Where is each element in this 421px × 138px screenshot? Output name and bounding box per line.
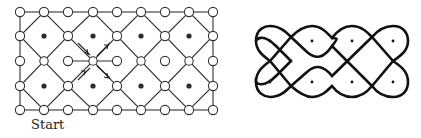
grid-node-circle	[112, 7, 121, 16]
filled-dot	[138, 83, 143, 88]
grid-node-circle	[185, 57, 193, 65]
grid-node-circle	[136, 105, 145, 114]
kolam-right-diagonals	[372, 37, 393, 86]
kolam-dot	[311, 40, 314, 43]
grid-node-circle	[160, 81, 169, 90]
grid-node-circle	[112, 105, 121, 114]
grid-node-circle	[39, 105, 48, 114]
grid-node-circle	[15, 31, 24, 40]
grid-node-circle	[63, 31, 72, 40]
grid-node-circle	[63, 56, 72, 65]
filled-dot	[41, 33, 46, 38]
kolam-dot	[311, 81, 314, 84]
grid-node-circle	[39, 7, 48, 16]
start-label: Start	[31, 117, 64, 132]
grid-nodes	[15, 7, 217, 114]
kolam-dot	[392, 40, 395, 43]
kolam-dot	[269, 40, 272, 43]
kolam-curve	[256, 26, 408, 97]
grid-node-circle	[208, 105, 217, 114]
grid-node-circle	[15, 7, 24, 16]
kolam-top-path	[256, 26, 408, 61]
filled-dot	[186, 83, 191, 88]
kolam-dot	[351, 40, 354, 43]
grid-node-circle	[15, 56, 24, 65]
kolam-inner-upper	[291, 37, 372, 86]
grid-node-circle	[112, 31, 121, 40]
grid-node-circle	[184, 105, 193, 114]
grid-node-circle	[208, 7, 217, 16]
grid-node-circle	[15, 81, 24, 90]
filled-dot	[186, 33, 191, 38]
filled-dot	[138, 33, 143, 38]
kolam-bottom-path	[256, 61, 408, 97]
kolam-dot	[351, 81, 354, 84]
grid-node-circle	[160, 56, 169, 65]
grid-node-circle	[63, 7, 72, 16]
kolam-dot	[269, 81, 272, 84]
grid-node-circle	[137, 57, 145, 65]
filled-dot	[90, 33, 95, 38]
grid-node-circle	[136, 7, 145, 16]
grid-node-circle	[15, 105, 24, 114]
grid-node-circle	[184, 7, 193, 16]
kolam-inner-lower	[291, 37, 372, 86]
grid-node-circle	[63, 105, 72, 114]
grid-node-circle	[160, 31, 169, 40]
grid-node-circle	[88, 7, 97, 16]
grid-node-circle	[208, 81, 217, 90]
grid-node-circle	[63, 81, 72, 90]
grid-node-circle	[160, 7, 169, 16]
grid-node-circle	[208, 56, 217, 65]
grid-node-circle	[208, 31, 217, 40]
filled-dot	[90, 83, 95, 88]
kolam-dot	[392, 81, 395, 84]
grid-node-circle	[88, 105, 97, 114]
grid-node-circle	[112, 81, 121, 90]
grid-node-circle	[40, 57, 48, 65]
grid-node-circle	[89, 57, 97, 65]
grid-node-circle	[112, 56, 121, 65]
grid-node-circle	[160, 105, 169, 114]
filled-dot	[41, 83, 46, 88]
